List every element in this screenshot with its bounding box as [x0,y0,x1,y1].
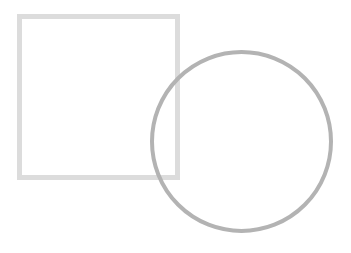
diagram-canvas [0,0,351,253]
